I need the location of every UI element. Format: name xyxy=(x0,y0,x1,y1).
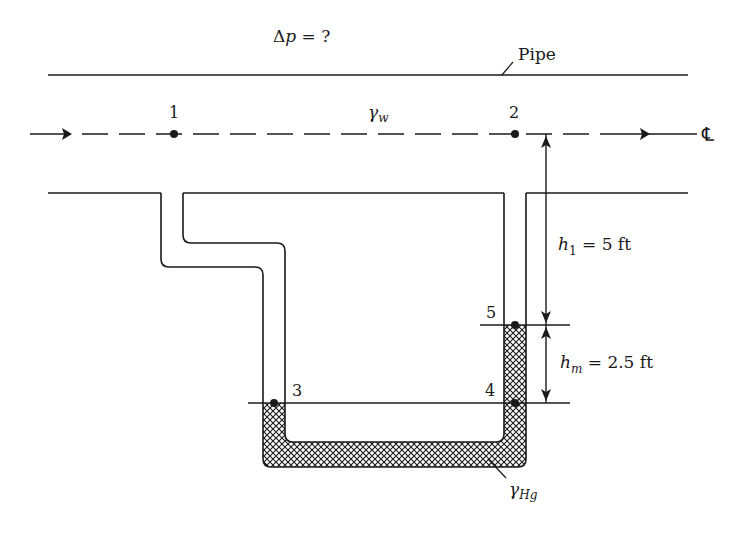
gamma-water-label: γw xyxy=(368,102,389,125)
point-1-marker xyxy=(170,130,178,138)
point-4-marker xyxy=(511,399,519,407)
point-4-label: 4 xyxy=(485,381,495,400)
manometer-outer-wall xyxy=(161,193,526,467)
centerline-symbol: ℄ xyxy=(701,123,715,145)
hm-dimension-label: hm = 2.5 ft xyxy=(560,352,653,376)
h1-dimension-label: h1 = 5 ft xyxy=(558,234,631,258)
manometer-inner-wall xyxy=(183,193,504,442)
point-1-label: 1 xyxy=(169,103,179,122)
delta-p-label: Δp = ? xyxy=(273,26,330,46)
point-2-label: 2 xyxy=(509,103,519,122)
point-2-marker xyxy=(511,130,519,138)
pipe-label: Pipe xyxy=(518,44,556,64)
pipe-label-leader xyxy=(502,62,513,75)
gamma-mercury-label: γHg xyxy=(509,479,538,502)
point-3-label: 3 xyxy=(292,381,302,400)
manometer-diagram: Δp = ? Pipe 1 2 3 4 5 γw ℄ h1 = 5 ft hm … xyxy=(0,0,747,535)
point-5-marker xyxy=(511,321,519,329)
point-3-marker xyxy=(270,399,278,407)
point-5-label: 5 xyxy=(486,303,496,322)
